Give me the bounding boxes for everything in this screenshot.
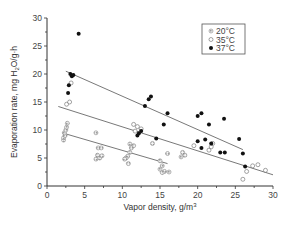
- x-tick-label: 20: [193, 190, 203, 200]
- data-point: [65, 125, 69, 129]
- x-ticks: 051015202530: [45, 186, 278, 200]
- x-tick-label: 30: [268, 190, 278, 200]
- data-point: [71, 73, 75, 77]
- data-point: [132, 122, 136, 126]
- data-point: [77, 32, 81, 36]
- y-tick-label: 25: [33, 41, 43, 51]
- data-point: [209, 141, 213, 145]
- data-point: [128, 142, 132, 146]
- regression-lines: [58, 71, 273, 175]
- data-point: [94, 157, 98, 161]
- data-point: [218, 150, 222, 154]
- data-point: [67, 83, 71, 87]
- data-point: [192, 144, 196, 148]
- data-point: [160, 171, 164, 175]
- data-point: [154, 136, 158, 140]
- data-point: [149, 94, 153, 98]
- data-point: [94, 131, 98, 135]
- data-point: [99, 146, 103, 150]
- data-point: [196, 139, 200, 143]
- scatter-chart: 051015202530 051015202530 Vapor density,…: [0, 0, 287, 229]
- data-point: [128, 150, 132, 154]
- y-tick-label: 20: [33, 69, 43, 79]
- data-point: [241, 177, 245, 181]
- y-tick-label: 5: [37, 153, 42, 163]
- data-point: [133, 129, 137, 133]
- data-point: [245, 169, 249, 173]
- data-point: [167, 170, 171, 174]
- data-point: [237, 137, 241, 141]
- data-point: [207, 122, 211, 126]
- y-tick-label: 10: [33, 125, 43, 135]
- data-point: [66, 91, 70, 95]
- x-tick-label: 15: [155, 190, 165, 200]
- data-point: [199, 111, 203, 115]
- x-tick-label: 0: [45, 190, 50, 200]
- data-point: [183, 153, 187, 157]
- data-point: [222, 117, 226, 121]
- data-point: [100, 154, 104, 158]
- data-point: [68, 100, 72, 104]
- legend: 20°C 35°C 37°C: [202, 24, 245, 54]
- legend-35c-marker-icon: [209, 38, 213, 42]
- regression-line: [62, 133, 167, 164]
- data-point: [65, 121, 69, 125]
- data-point: [179, 155, 183, 159]
- data-point: [150, 141, 154, 145]
- x-tick-label: 5: [82, 190, 87, 200]
- data-point: [123, 157, 127, 161]
- data-point: [129, 146, 133, 150]
- regression-line: [58, 106, 273, 174]
- y-tick-label: 0: [37, 181, 42, 191]
- data-point: [162, 122, 166, 126]
- x-axis-label: Vapor density, g/m3: [124, 202, 198, 212]
- y-tick-label: 30: [33, 13, 43, 23]
- data-point: [126, 162, 130, 166]
- data-point: [263, 168, 267, 172]
- data-point: [166, 111, 170, 115]
- data-point: [241, 152, 245, 156]
- data-point: [256, 163, 260, 167]
- y-axis-label: Evaporation rate, mg H2O/g·h: [9, 46, 20, 158]
- y-ticks: 051015202530: [33, 13, 47, 191]
- data-point: [251, 164, 255, 168]
- x-tick-label: 10: [118, 190, 128, 200]
- data-point: [203, 138, 207, 142]
- data-point: [223, 150, 227, 154]
- data-point: [199, 146, 203, 150]
- data-point: [166, 152, 170, 156]
- data-point: [196, 114, 200, 118]
- data-point: [158, 159, 162, 163]
- legend-37c-label: 37°C: [216, 43, 235, 53]
- data-point: [135, 125, 139, 129]
- y-tick-label: 15: [33, 97, 43, 107]
- legend-20c-marker-icon: [209, 29, 213, 33]
- data-point: [135, 134, 139, 138]
- x-tick-label: 25: [231, 190, 241, 200]
- legend-37c-marker-icon: [209, 46, 213, 50]
- data-point: [143, 104, 147, 108]
- data-point: [243, 164, 247, 168]
